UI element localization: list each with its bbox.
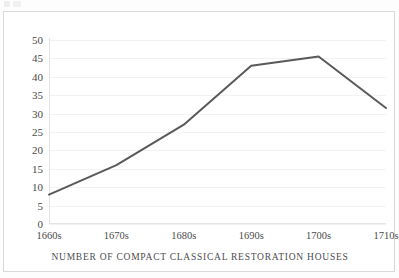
x-axis-tick-label: 1660s — [36, 230, 61, 242]
x-axis-tick-label: 1690s — [239, 230, 264, 242]
figure-screenshot: 05101520253035404550 1660s1670s1680s1690… — [0, 0, 399, 278]
y-axis-tick-label: 10 — [32, 182, 43, 193]
y-axis-tick-label: 20 — [32, 145, 43, 156]
line-series-svg — [49, 40, 386, 224]
y-axis-tick-label: 25 — [32, 127, 43, 138]
gridline — [49, 224, 386, 225]
x-axis-tick-label: 1680s — [171, 230, 196, 242]
y-axis-tick-label: 45 — [32, 53, 43, 64]
y-axis-tick-label: 40 — [32, 71, 43, 82]
y-axis-tick-label: 5 — [38, 200, 44, 211]
y-axis-tick-label: 30 — [32, 108, 43, 119]
x-axis-tick-label: 1700s — [306, 230, 331, 242]
plot-canvas — [49, 40, 386, 224]
x-axis-tick-label: 1710s — [373, 230, 398, 242]
y-axis-tick-label: 35 — [32, 90, 43, 101]
chart-plot-area: 05101520253035404550 1660s1670s1680s1690… — [4, 12, 396, 228]
series-line-path — [49, 57, 386, 195]
page-scan-artifact — [4, 1, 26, 7]
x-axis-tick-labels: 1660s1670s1680s1690s1700s1710s — [49, 230, 386, 246]
chart-caption: NUMBER OF COMPACT CLASSICAL RESTORATION … — [4, 252, 396, 262]
x-axis-tick-label: 1670s — [104, 230, 129, 242]
figure-frame: 05101520253035404550 1660s1670s1680s1690… — [3, 11, 395, 272]
y-axis-tick-label: 50 — [32, 35, 43, 46]
y-axis-tick-labels: 05101520253035404550 — [4, 40, 49, 224]
y-axis-tick-label: 15 — [32, 163, 43, 174]
y-axis-tick-label: 0 — [38, 219, 44, 230]
